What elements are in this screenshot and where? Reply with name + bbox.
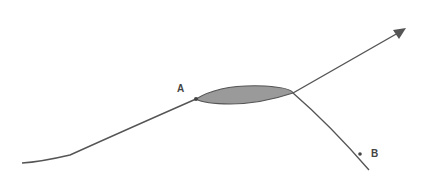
point-a-label: A [177, 83, 184, 94]
point-a-dot [194, 97, 198, 101]
incoming-curve [22, 99, 196, 163]
point-b-dot [358, 152, 362, 156]
outgoing-arrow-line [293, 33, 398, 93]
arrowhead-icon [393, 28, 406, 39]
shaded-lens-region [196, 86, 293, 104]
point-b-label: B [371, 148, 378, 159]
branch-to-b-line [293, 93, 369, 170]
diagram-canvas [0, 0, 427, 186]
